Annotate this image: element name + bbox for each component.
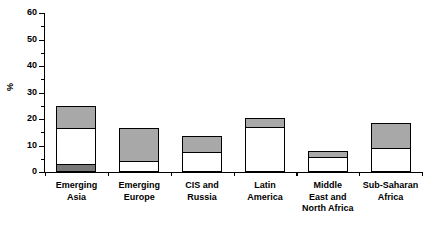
y-tick-minor [0, 132, 44, 133]
y-tick-minor [0, 79, 44, 80]
x-tick-mark [45, 172, 46, 176]
x-tick-mark [108, 172, 109, 176]
category-label: CIS and Russia [171, 180, 234, 203]
y-tick-major: 0 [0, 172, 44, 173]
y-tick-label: 50 [27, 34, 37, 44]
stacked-bar [308, 151, 348, 172]
y-tick-major: 20 [0, 119, 44, 120]
y-tick-label: 20 [27, 113, 37, 123]
bar-segment-middle-white-segment [56, 128, 96, 164]
y-tick-label: 30 [27, 87, 37, 97]
plot-area [45, 13, 422, 172]
y-tick-minor [0, 53, 44, 54]
category-label: Emerging Europe [108, 180, 171, 203]
bar-segment-top-gray-segment [371, 123, 411, 148]
bar-segment-top-gray-segment [56, 106, 96, 129]
x-tick-mark [171, 172, 172, 176]
y-tick-label: 10 [27, 140, 37, 150]
y-tick-major: 30 [0, 93, 44, 94]
category-label: Middle East and North Africa [296, 180, 359, 215]
bar-segment-middle-white-segment [245, 127, 285, 172]
x-tick-mark [359, 172, 360, 176]
bar-segment-top-gray-segment [119, 128, 159, 161]
bar-segment-middle-white-segment [371, 148, 411, 172]
bar-segment-bottom-dark-segment [56, 164, 96, 172]
y-tick-minor [0, 159, 44, 160]
x-tick-mark [234, 172, 235, 176]
stacked-bar [245, 118, 285, 172]
bar-segment-top-gray-segment [308, 151, 348, 158]
y-tick-major: 50 [0, 40, 44, 41]
stacked-bar [371, 123, 411, 172]
stacked-bar [56, 106, 96, 172]
category-label: Latin America [234, 180, 297, 203]
bar-segment-middle-white-segment [308, 157, 348, 172]
y-tick-minor [0, 26, 44, 27]
bar-segment-top-gray-segment [245, 118, 285, 127]
stacked-bar [182, 136, 222, 172]
y-tick-label: 60 [27, 7, 37, 17]
y-tick-label: 0 [32, 166, 37, 176]
y-tick-major: 40 [0, 66, 44, 67]
y-tick-major: 10 [0, 146, 44, 147]
stacked-bar-chart: % 0102030405060 Emerging AsiaEmerging Eu… [0, 0, 426, 225]
category-label: Sub-Saharan Africa [359, 180, 422, 203]
bar-segment-middle-white-segment [182, 152, 222, 172]
category-label: Emerging Asia [45, 180, 108, 203]
bar-segment-top-gray-segment [182, 136, 222, 152]
x-tick-mark [296, 172, 297, 176]
x-tick-mark [422, 172, 423, 176]
stacked-bar [119, 128, 159, 172]
y-tick-label: 40 [27, 60, 37, 70]
y-tick-minor [0, 106, 44, 107]
bar-segment-middle-white-segment [119, 161, 159, 172]
y-tick-major: 60 [0, 13, 44, 14]
